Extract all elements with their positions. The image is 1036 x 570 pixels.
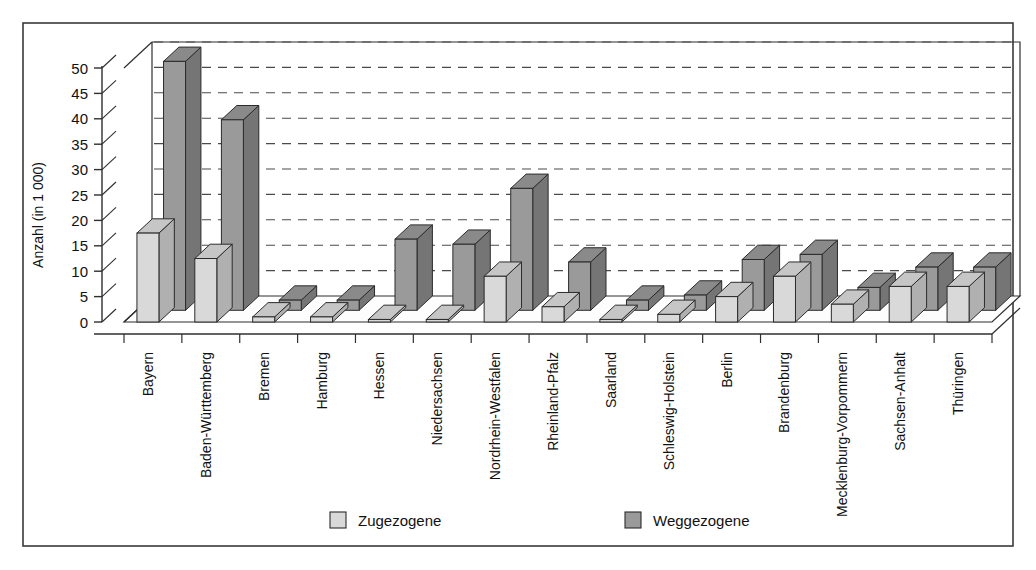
x-category-label: Mecklenburg-Vorpommern	[834, 352, 850, 517]
bar-zugezogene	[137, 219, 174, 322]
legend-swatch	[330, 512, 346, 528]
y-tick-label: 20	[71, 212, 88, 229]
y-tick-label: 35	[71, 136, 88, 153]
x-category-label: Nordrhein-Westfalen	[487, 352, 503, 480]
legend-label: Zugezogene	[358, 512, 441, 529]
y-tick-label: 45	[71, 85, 88, 102]
x-category-label: Niedersachsen	[429, 352, 445, 445]
x-category-label: Bremen	[256, 352, 272, 401]
y-tick-label: 10	[71, 263, 88, 280]
x-category-label: Bayern	[140, 352, 156, 396]
bar-zugezogene	[773, 262, 810, 322]
y-tick-label: 50	[71, 60, 88, 77]
x-category-label: Berlin	[719, 352, 735, 388]
x-category-label: Thüringen	[950, 352, 966, 415]
y-tick-label: 0	[80, 314, 88, 331]
y-tick-label: 40	[71, 110, 88, 127]
x-category-label: Schleswig-Holstein	[661, 352, 677, 470]
chart-container: 05101520253035404550 BayernBaden-Württem…	[0, 0, 1036, 570]
y-axis-title: Anzahl (in 1 000)	[30, 162, 46, 268]
y-tick-label: 25	[71, 187, 88, 204]
x-category-label: Sachsen-Anhalt	[892, 352, 908, 451]
x-category-label: Brandenburg	[776, 352, 792, 433]
y-tick-label: 30	[71, 161, 88, 178]
y-tick-label: 5	[80, 288, 88, 305]
x-category-label: Saarland	[603, 352, 619, 408]
bar-zugezogene	[484, 262, 521, 322]
bar-chart: 05101520253035404550 BayernBaden-Württem…	[0, 0, 1036, 570]
x-category-label: Rheinland-Pfalz	[545, 352, 561, 451]
legend-label: Weggezogene	[653, 512, 749, 529]
x-category-label: Hessen	[371, 352, 387, 399]
x-category-label: Baden-Württemberg	[198, 352, 214, 478]
y-tick-label: 15	[71, 237, 88, 254]
legend-swatch	[625, 512, 641, 528]
x-category-label: Hamburg	[314, 352, 330, 410]
bar-weggezogene	[395, 225, 432, 310]
bar-zugezogene	[195, 244, 232, 322]
